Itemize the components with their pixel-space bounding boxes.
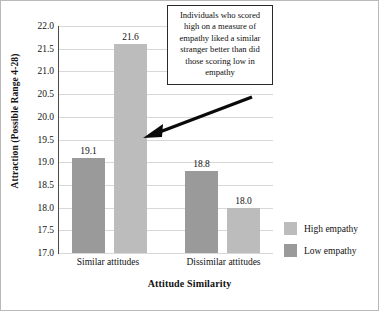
y-tick-label: 17.5 [37,225,54,235]
y-tick-label: 20.5 [37,89,54,99]
y-tick-label: 18.0 [37,203,54,213]
y-tick-label: 22.0 [37,21,54,31]
y-tick-label: 20.0 [37,112,54,122]
bar: 19.1 [72,158,105,253]
bar-value-label: 18.8 [193,159,210,169]
x-tick-label-dissimilar: Dissimilar attitudes [166,257,281,267]
bar: 18.0 [227,208,260,253]
bar-value-label: 19.1 [80,146,97,156]
bar: 18.8 [185,171,218,253]
chart-figure: Attraction (Possible Range 4-28) 22.0 21… [0,0,379,311]
legend-item-high-empathy: High empathy [284,222,376,235]
x-axis-title: Attitude Similarity [1,278,378,289]
legend-label: Low empathy [304,246,357,256]
legend-swatch-icon [284,244,297,257]
gridline: 19.5 [59,140,273,141]
y-tick-label: 17.0 [37,248,54,258]
y-tick-label: 19.5 [37,135,54,145]
bar-value-label: 21.6 [122,32,139,42]
y-tick-label: 21.5 [37,44,54,54]
gridline: 17.0 [59,253,273,254]
gridline: 20.0 [59,117,273,118]
legend-label: High empathy [304,224,358,234]
legend-item-low-empathy: Low empathy [284,244,376,257]
y-tick-label: 19.0 [37,157,54,167]
bar-value-label: 18.0 [235,196,252,206]
y-tick-label: 21.0 [37,66,54,76]
y-tick-label: 18.5 [37,180,54,190]
gridline: 20.5 [59,94,273,95]
bar: 21.6 [114,44,147,253]
x-tick-label-similar: Similar attitudes [58,257,158,267]
y-axis-title: Attraction (Possible Range 4-28) [10,21,20,221]
legend: High empathy Low empathy [284,222,376,266]
legend-swatch-icon [284,222,297,235]
annotation-callout: Individuals who scored high on a measure… [167,5,273,85]
